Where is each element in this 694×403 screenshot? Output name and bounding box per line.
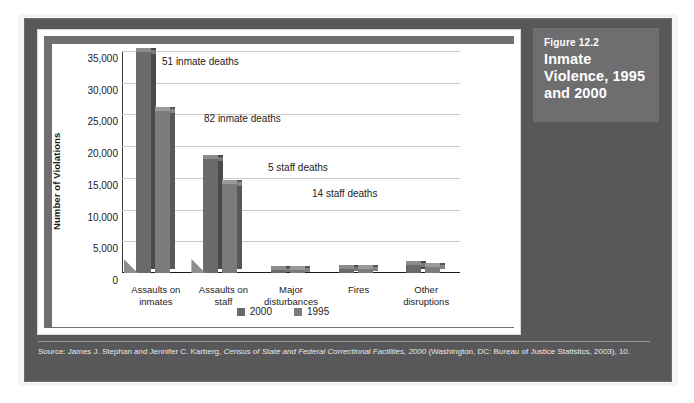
y-axis-tick-label: 15,000 — [54, 179, 118, 190]
bar-group — [134, 51, 178, 273]
y-axis-tick-label: 0 — [54, 275, 118, 286]
y-axis-tick-label: 5,000 — [54, 243, 118, 254]
bar-top-wedge — [170, 109, 175, 113]
y-axis-tick-label: 10,000 — [54, 211, 118, 222]
bar-top — [203, 155, 218, 159]
bar-top-wedge — [305, 268, 310, 272]
bar-top — [425, 263, 440, 267]
y-axis-tick-label: 30,000 — [54, 84, 118, 95]
y-axis-tick-labels: 05,00010,00015,00020,00025,00030,00035,0… — [52, 51, 118, 273]
bar-front — [406, 265, 421, 273]
chart-annotation: 82 inmate deaths — [204, 113, 281, 124]
bar-top — [339, 265, 354, 269]
bar-top-wedge — [151, 50, 156, 54]
bar-front — [290, 270, 305, 273]
source-title: Census of State and Federal Correctional… — [223, 347, 426, 356]
bar-front — [425, 267, 440, 273]
plot-area: Assaults oninmatesAssaults onstaffMajord… — [122, 51, 460, 273]
legend-label: 2000 — [250, 306, 272, 317]
bar-top — [406, 261, 421, 265]
x-axis-category-label: Assaults oninmates — [119, 284, 193, 307]
x-axis-tick-label: Other — [389, 284, 463, 296]
bar-front — [155, 111, 170, 273]
bar-top-wedge — [218, 157, 223, 161]
bar-side — [237, 180, 242, 269]
chart-annotation: 5 staff deaths — [268, 162, 328, 173]
bar-top — [222, 180, 237, 184]
source-divider — [38, 341, 650, 342]
bar-front — [136, 52, 151, 273]
bar-top — [271, 266, 286, 270]
y-axis-tick-label: 35,000 — [54, 53, 118, 64]
bar-side — [170, 107, 175, 269]
bar-top-wedge — [440, 265, 445, 269]
y-axis-tick-label: 25,000 — [54, 116, 118, 127]
bar-top-wedge — [237, 182, 242, 186]
bar-group — [201, 51, 245, 273]
bar-chart: Number of Violations 05,00010,00015,0002… — [52, 44, 514, 327]
legend-swatch-icon — [294, 308, 302, 316]
figure-title-block: Figure 12.2 Inmate Violence, 1995 and 20… — [533, 28, 659, 122]
source-prefix: Source: James J. Stephan and Jennifer C.… — [38, 347, 223, 356]
source-note: Source: James J. Stephan and Jennifer C.… — [38, 346, 646, 357]
legend-item: 1995 — [294, 306, 329, 317]
x-axis-category-label: Otherdisruptions — [389, 284, 463, 307]
bar-front — [222, 184, 237, 273]
x-axis-category-label: Majordisturbances — [254, 284, 328, 307]
x-axis-category-label: Fires — [322, 284, 396, 296]
bar-front — [203, 159, 218, 273]
bar-front — [271, 270, 286, 273]
bar-group — [404, 51, 448, 273]
bar-front — [358, 269, 373, 273]
chart-card: Number of Violations 05,00010,00015,0002… — [52, 44, 514, 327]
legend-label: 1995 — [307, 306, 329, 317]
y-axis-tick-label: 20,000 — [54, 148, 118, 159]
chart-legend: 20001995 — [52, 306, 514, 317]
x-axis-tick-label: Assaults on — [186, 284, 260, 296]
x-axis-tick-label: Fires — [322, 284, 396, 296]
bar-top — [136, 48, 151, 52]
page-title: Inmate Violence, 1995 and 2000 — [544, 51, 648, 102]
legend-item: 2000 — [237, 306, 272, 317]
bar-group — [337, 51, 381, 273]
bar-front — [339, 269, 354, 273]
x-axis-category-label: Assaults onstaff — [186, 284, 260, 307]
legend-swatch-icon — [237, 308, 245, 316]
bar-top — [290, 266, 305, 270]
figure-number: Figure 12.2 — [544, 37, 648, 48]
source-suffix: (Washington, DC: Bureau of Justice Stati… — [426, 347, 630, 356]
bar-top-wedge — [373, 267, 378, 271]
bar-top — [358, 265, 373, 269]
figure-page: Number of Violations 05,00010,00015,0002… — [0, 0, 694, 403]
x-axis-tick-label: Major — [254, 284, 328, 296]
chart-annotation: 14 staff deaths — [312, 188, 377, 199]
bar-top — [155, 107, 170, 111]
chart-annotation: 51 inmate deaths — [162, 56, 239, 67]
x-axis-tick-label: Assaults on — [119, 284, 193, 296]
